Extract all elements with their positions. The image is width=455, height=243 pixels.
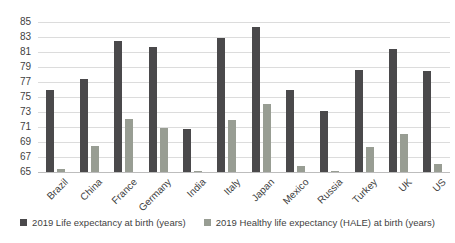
gridline	[38, 22, 450, 23]
bar-series1-brazil	[57, 169, 65, 172]
y-axis-tick-label: 83	[5, 32, 31, 42]
bar-series1-germany	[160, 128, 168, 172]
legend-item-life-expectancy: 2019 Life expectancy at birth (years)	[20, 217, 186, 228]
gridline	[38, 37, 450, 38]
bar-series0-brazil	[46, 90, 54, 172]
legend-label-healthy-life-expectancy: 2019 Healthy life expectancy (HALE) at b…	[216, 217, 435, 228]
life-expectancy-bar-chart: 6567697173757779818385BrazilChinaFranceG…	[0, 0, 455, 243]
bar-series0-germany	[149, 47, 157, 172]
y-axis-tick-label: 85	[5, 17, 31, 27]
bar-series1-uk	[400, 134, 408, 172]
bar-series1-us	[434, 164, 442, 172]
legend-item-healthy-life-expectancy: 2019 Healthy life expectancy (HALE) at b…	[204, 217, 435, 228]
bar-series1-france	[125, 119, 133, 172]
legend-marker-life-expectancy	[20, 219, 27, 226]
bar-series1-italy	[228, 120, 236, 172]
x-axis-line	[38, 172, 450, 173]
y-axis-tick-label: 81	[5, 47, 31, 57]
legend-label-life-expectancy: 2019 Life expectancy at birth (years)	[32, 217, 186, 228]
x-axis-label-uk: UK	[397, 177, 414, 194]
bar-series0-china	[80, 79, 88, 172]
bar-series1-turkey	[366, 147, 374, 173]
x-axis-label-russia: Russia	[316, 177, 345, 206]
x-axis-label-france: France	[110, 177, 139, 206]
bar-series0-japan	[252, 27, 260, 172]
x-axis-label-italy: Italy	[222, 177, 242, 197]
bar-series1-india	[194, 171, 202, 172]
bar-series0-turkey	[355, 70, 363, 172]
y-axis-tick-label: 79	[5, 62, 31, 72]
y-axis-tick-label: 71	[5, 122, 31, 132]
bar-series0-mexico	[286, 90, 294, 173]
x-axis-label-germany: Germany	[137, 177, 173, 213]
bar-series0-france	[114, 41, 122, 172]
y-axis-tick-label: 65	[5, 167, 31, 177]
x-axis-label-brazil: Brazil	[45, 177, 70, 202]
y-axis-tick-label: 69	[5, 137, 31, 147]
bar-series1-russia	[331, 171, 339, 172]
x-axis-label-mexico: Mexico	[281, 177, 310, 206]
x-axis-label-turkey: Turkey	[351, 177, 379, 205]
x-axis-label-india: India	[185, 177, 207, 199]
legend: 2019 Life expectancy at birth (years) 20…	[0, 217, 455, 228]
bar-series0-india	[183, 129, 191, 173]
x-axis-label-china: China	[79, 177, 105, 203]
y-axis-tick-label: 77	[5, 77, 31, 87]
legend-marker-healthy-life-expectancy	[204, 219, 211, 226]
y-axis-tick-label: 75	[5, 92, 31, 102]
bar-series0-us	[423, 71, 431, 172]
y-axis-tick-label: 67	[5, 152, 31, 162]
bar-series0-uk	[389, 49, 397, 172]
bar-series0-italy	[217, 38, 225, 172]
bar-series1-japan	[263, 104, 271, 172]
y-axis-tick-label: 73	[5, 107, 31, 117]
x-axis-label-us: US	[431, 177, 448, 194]
bar-series1-china	[91, 146, 99, 172]
x-axis-label-japan: Japan	[250, 177, 276, 203]
bar-series1-mexico	[297, 166, 305, 172]
bar-series0-russia	[320, 111, 328, 173]
